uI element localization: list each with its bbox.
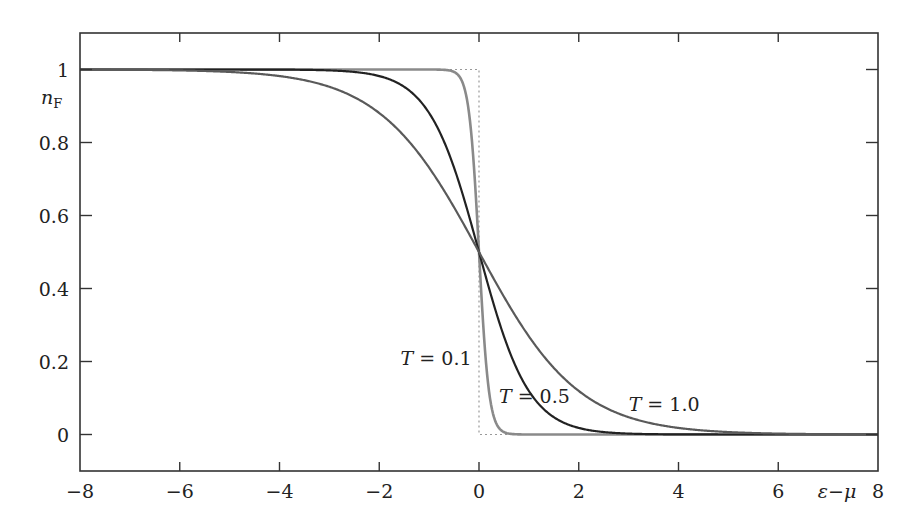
curve-label-t-1: T = 1.0: [629, 393, 700, 415]
x-tick-label: 0: [473, 480, 485, 502]
x-tick-label: 6: [772, 480, 784, 502]
y-axis-ticks: 00.20.40.60.81: [39, 59, 878, 446]
curve-labels: T = 0.1T = 0.5T = 1.0: [401, 347, 700, 415]
curve-label-t-0-1: T = 0.1: [401, 347, 472, 369]
y-axis-label-main: n: [41, 86, 53, 108]
x-axis-ticks: −8−6−4−202468: [66, 33, 884, 502]
y-axis-label-sub: F: [53, 96, 62, 111]
x-tick-label: 2: [573, 480, 585, 502]
y-tick-label: 0.2: [39, 351, 69, 373]
x-axis-label: ε−μ: [818, 480, 856, 502]
curve-t-1: [80, 70, 878, 435]
x-tick-label: 4: [672, 480, 684, 502]
y-tick-label: 0.6: [39, 205, 69, 227]
x-tick-label: −2: [365, 480, 393, 502]
y-tick-label: 0: [57, 424, 69, 446]
curve-label-t-0-5: T = 0.5: [499, 385, 570, 407]
y-axis-label: nF: [41, 86, 62, 111]
x-tick-label: −6: [166, 480, 194, 502]
x-tick-label: −8: [66, 480, 94, 502]
fermi-dirac-chart: −8−6−4−202468 00.20.40.60.81 T = 0.1T = …: [0, 0, 916, 521]
curves-group: [80, 70, 878, 435]
x-tick-label: 8: [872, 480, 884, 502]
y-tick-label: 1: [57, 59, 69, 81]
y-tick-label: 0.8: [39, 132, 69, 154]
x-tick-label: −4: [265, 480, 293, 502]
y-tick-label: 0.4: [39, 278, 69, 300]
